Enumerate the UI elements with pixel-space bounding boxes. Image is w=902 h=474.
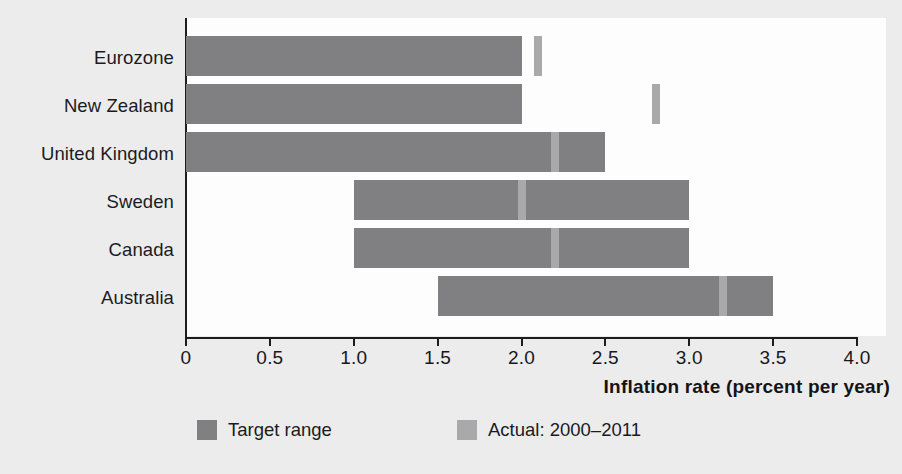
legend-item-actual: Actual: 2000–2011 [457, 419, 641, 441]
x-axis-tick [604, 339, 606, 346]
x-axis-tick [772, 339, 774, 346]
actual-value-marker [719, 276, 727, 316]
x-axis-tick-label: 2.5 [592, 347, 619, 369]
category-label-australia: Australia [101, 287, 174, 309]
actual-value-marker [534, 36, 542, 76]
x-axis-tick [856, 339, 858, 346]
target-range-bar [186, 36, 522, 76]
legend-label-actual: Actual: 2000–2011 [488, 419, 641, 441]
x-axis-tick-label: 1.5 [424, 347, 451, 369]
x-axis-title: Inflation rate (percent per year) [0, 376, 890, 398]
x-axis-tick-label: 1.0 [340, 347, 367, 369]
category-label-eurozone: Eurozone [94, 47, 174, 69]
x-axis-tick-label: 0 [181, 347, 192, 369]
category-label-canada: Canada [109, 239, 174, 261]
category-label-new-zealand: New Zealand [64, 95, 174, 117]
x-axis-tick [437, 339, 439, 346]
x-axis-tick [185, 339, 187, 346]
legend-label-target-range: Target range [228, 419, 332, 441]
x-axis-tick-label: 0.5 [256, 347, 283, 369]
legend-swatch-target-range [197, 420, 217, 440]
chart-legend: Target range Actual: 2000–2011 [0, 417, 902, 457]
actual-value-marker [518, 180, 526, 220]
x-axis-tick [521, 339, 523, 346]
legend-swatch-actual [457, 420, 477, 440]
x-axis-tick [269, 339, 271, 346]
chart-page: Eurozone New Zealand United Kingdom Swed… [0, 0, 902, 474]
x-axis-tick-label: 4.0 [843, 347, 870, 369]
x-axis-tick [688, 339, 690, 346]
category-axis-labels: Eurozone New Zealand United Kingdom Swed… [0, 0, 174, 340]
actual-value-marker [551, 228, 559, 268]
target-range-bar [186, 84, 522, 124]
target-range-bar [186, 132, 605, 172]
target-range-bar [354, 228, 690, 268]
x-axis-tick-label: 3.5 [760, 347, 787, 369]
category-label-united-kingdom: United Kingdom [41, 143, 174, 165]
x-axis-tick-label: 3.0 [676, 347, 703, 369]
category-label-sweden: Sweden [107, 191, 174, 213]
actual-value-marker [551, 132, 559, 172]
x-axis-tick-label: 2.0 [508, 347, 535, 369]
legend-item-target-range: Target range [197, 419, 332, 441]
actual-value-marker [652, 84, 660, 124]
x-axis-tick [353, 339, 355, 346]
